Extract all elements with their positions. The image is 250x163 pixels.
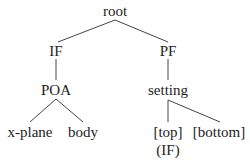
edge-poa-xplane [30,99,56,122]
node-if: IF [49,43,62,59]
edge-setting-bottom [168,100,220,122]
node-top: [top] [153,124,182,140]
node-setting: setting [148,82,188,98]
node-top-annotation: (IF) [156,142,179,158]
edge-root-if [58,20,115,42]
edge-root-pf [115,20,168,42]
node-xplane: x-plane [8,124,53,140]
edge-poa-body [56,99,83,122]
node-pf: PF [160,43,177,59]
node-body: body [68,124,98,140]
node-root: root [103,3,127,19]
node-bottom: [bottom] [193,124,246,140]
node-poa: POA [41,82,71,98]
